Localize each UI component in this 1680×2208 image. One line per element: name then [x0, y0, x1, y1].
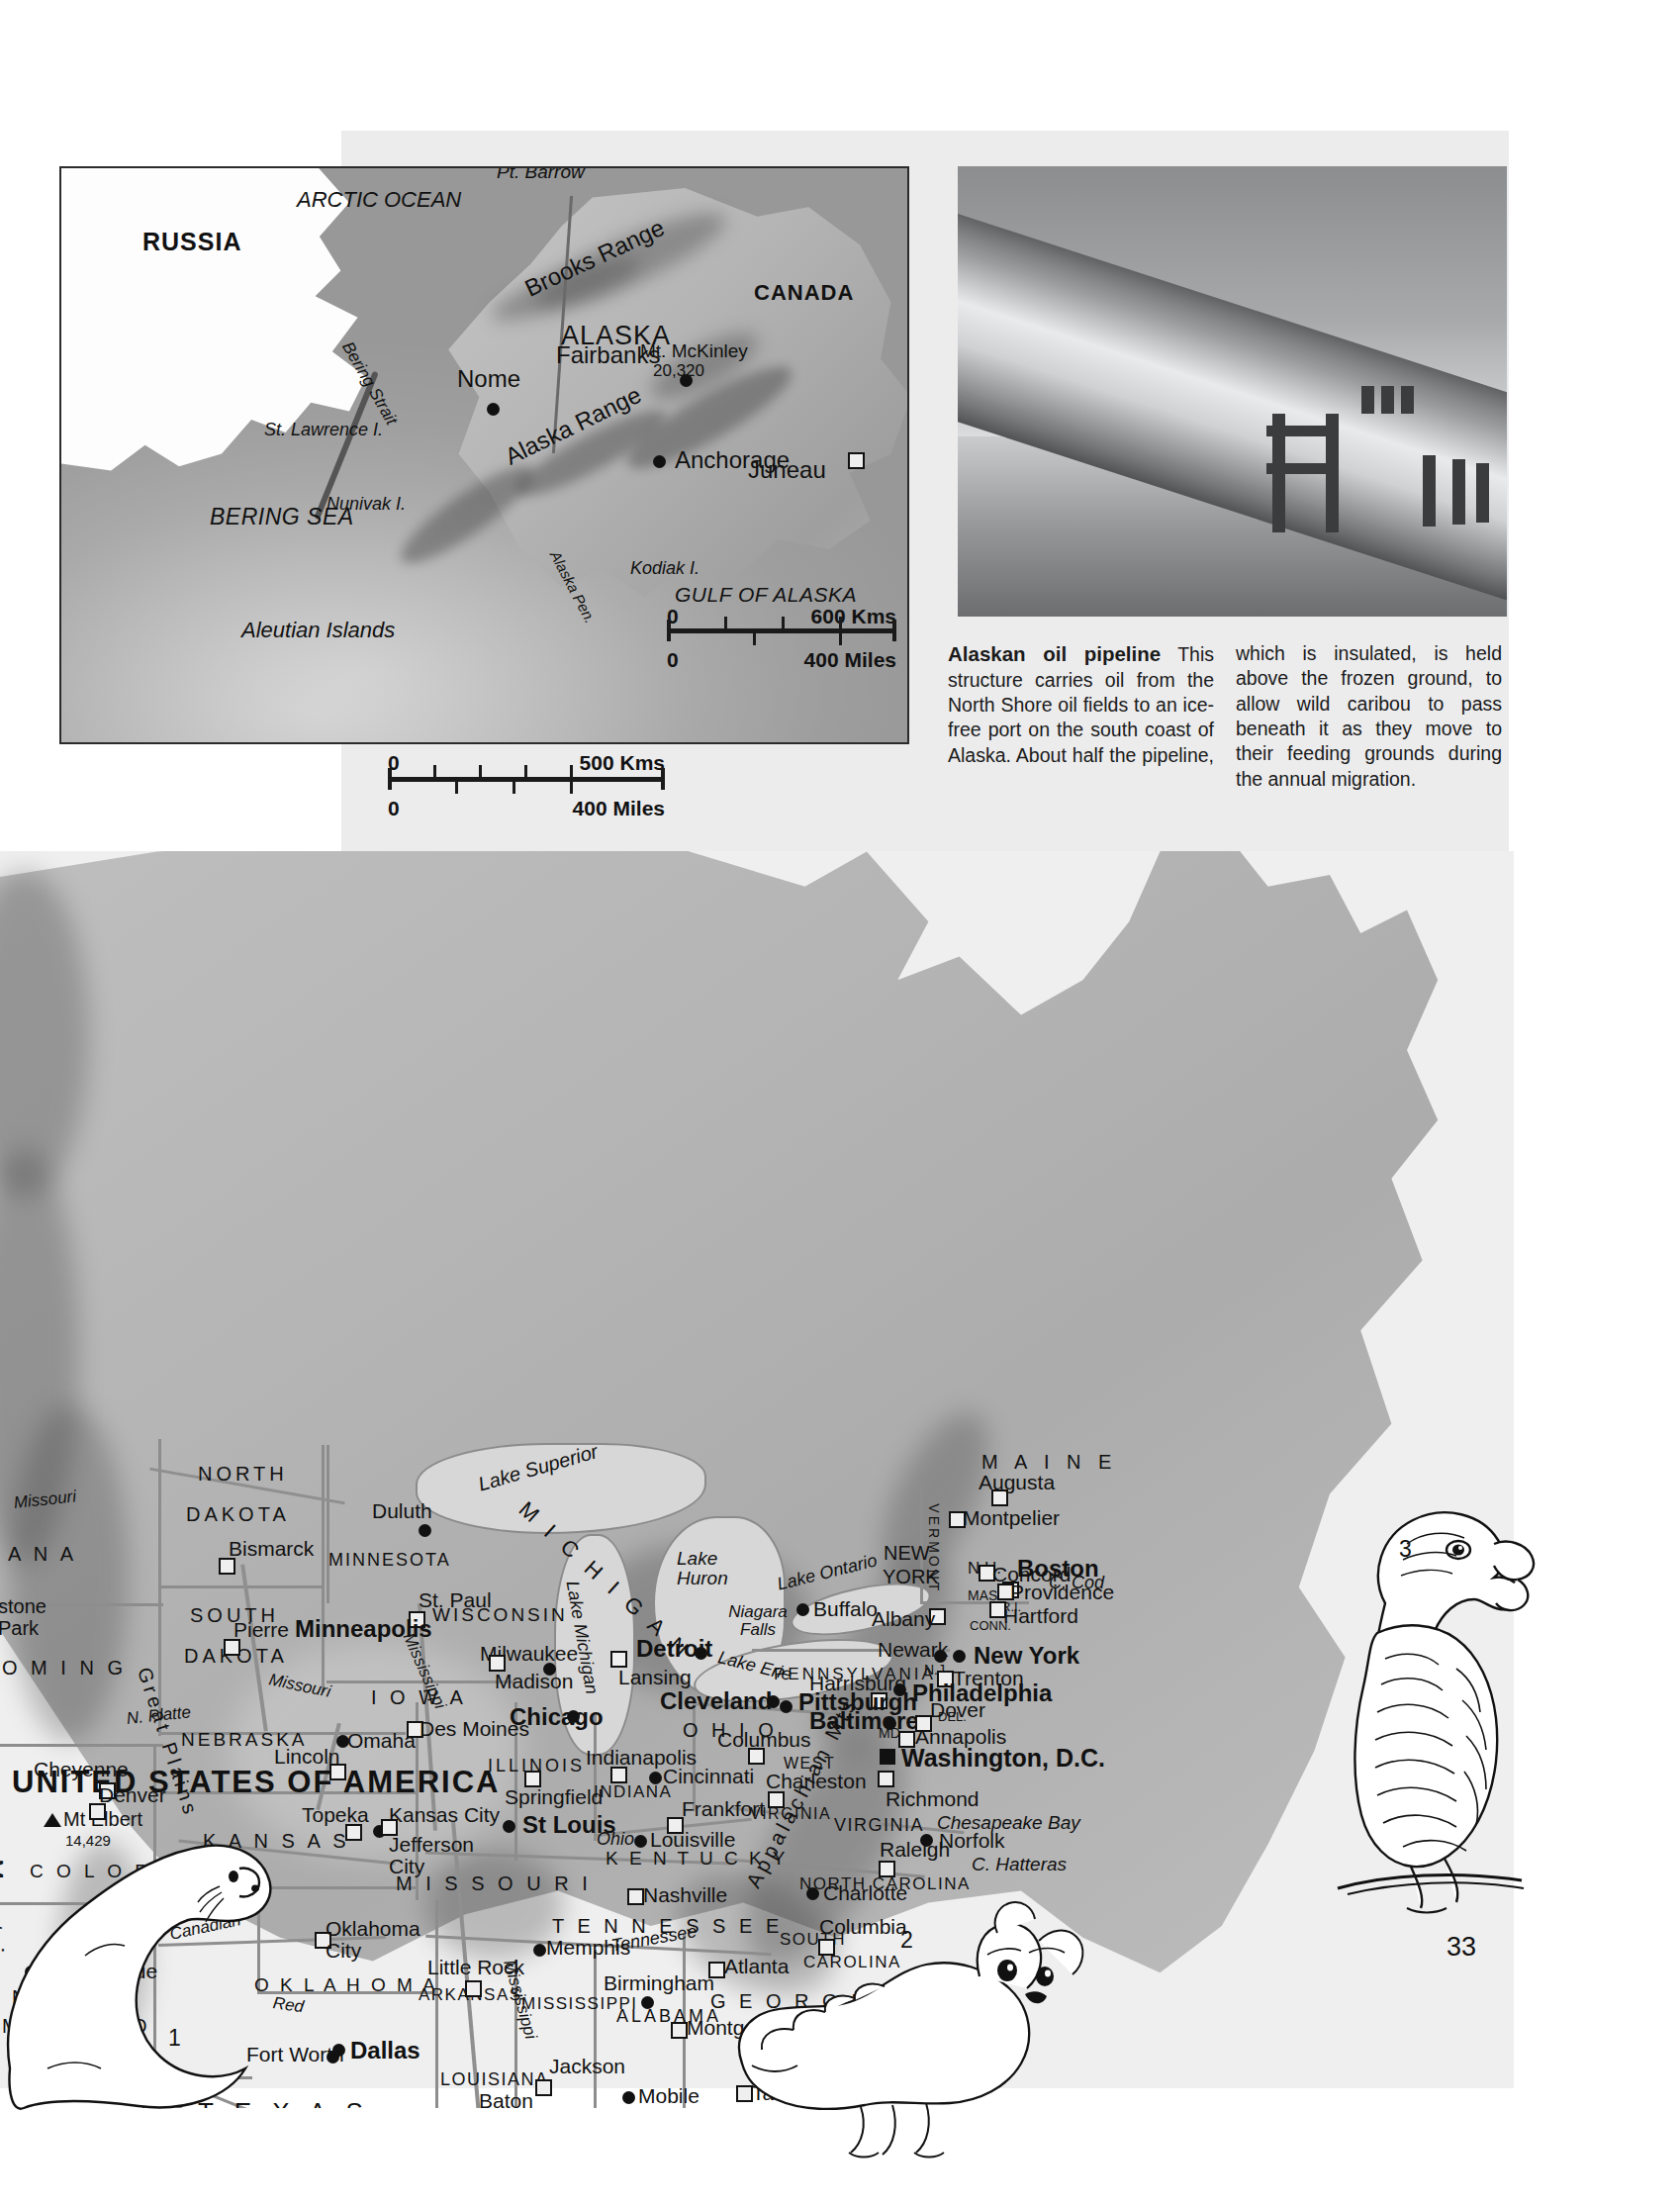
alaska-scale-km-end: 600 Kms	[811, 605, 896, 628]
main-scale-mi-start: 0	[388, 797, 400, 820]
city-label-detroit: Detroit	[636, 1636, 712, 1661]
capital-marker-little-rock[interactable]	[465, 1980, 482, 1997]
city-label-memphis: Memphis	[546, 1937, 630, 1959]
city-label-cincinnati: Cincinnati	[663, 1766, 754, 1787]
city-marker-st-louis[interactable]	[503, 1820, 515, 1833]
city-label-duluth: Duluth	[372, 1500, 432, 1522]
city-label-oklahoma-city: Oklahoma City	[326, 1918, 409, 1962]
caption-title: Alaskan oil pipeline	[948, 642, 1161, 665]
state-label-maine: M A I N E	[981, 1452, 1117, 1473]
city-label-albany: Albany	[872, 1608, 935, 1630]
city-label-minneapolis: Minneapolis	[295, 1616, 432, 1641]
pipeline-caption: Alaskan oil pipeline This structure carr…	[948, 641, 1502, 792]
alaska-scale-mi-start: 0	[667, 648, 679, 672]
capital-marker-richmond[interactable]	[878, 1771, 894, 1787]
border-dakota-east	[322, 1445, 325, 1692]
pipeline-vent-3	[1401, 386, 1414, 414]
animal-number-2: 2	[900, 1927, 913, 1954]
city-label-buffalo: Buffalo	[813, 1598, 878, 1620]
city-marker-mobile[interactable]	[622, 2091, 635, 2104]
pipeline-distant-post-3	[1476, 463, 1489, 523]
city-label-nashville: Nashville	[643, 1884, 727, 1906]
city-label-montpelier: Montpelier	[963, 1507, 1060, 1529]
capital-marker-charleston-wv[interactable]	[768, 1791, 785, 1808]
city-marker-new-york[interactable]	[953, 1650, 966, 1663]
city-marker-pittsburgh[interactable]	[780, 1700, 793, 1713]
pipeline-vent-2	[1381, 386, 1394, 414]
capital-marker-indianapolis[interactable]	[610, 1767, 627, 1783]
city-label-louisville: Louisville	[650, 1829, 735, 1851]
capital-marker-nashville[interactable]	[627, 1888, 644, 1905]
capital-marker-juneau[interactable]	[848, 452, 865, 469]
city-label-madison: Madison	[495, 1671, 573, 1692]
city-marker-memphis[interactable]	[533, 1944, 546, 1957]
city-marker-cincinnati[interactable]	[649, 1772, 662, 1784]
city-label-indianapolis: Indianapolis	[586, 1747, 697, 1769]
city-label-lansing: Lansing	[618, 1667, 692, 1688]
capital-marker-washington-dc[interactable]	[880, 1749, 895, 1765]
city-label-des-moines: Des Moines	[420, 1718, 529, 1740]
label-arctic-ocean: ARCTIC OCEAN	[297, 188, 461, 211]
page-number: 33	[1447, 1932, 1476, 1963]
peak-elevation-mckinley: 20,320	[653, 362, 704, 380]
label-kodiak-island: Kodiak I.	[630, 559, 700, 578]
city-label-jefferson-city: Jefferson City	[389, 1834, 488, 1877]
city-label-cleveland: Cleveland	[660, 1688, 772, 1713]
label-aleutian-islands: Aleutian Islands	[241, 619, 395, 641]
border-nd-sd	[158, 1585, 322, 1588]
label-canada: CANADA	[754, 281, 854, 304]
capital-marker-topeka[interactable]	[345, 1824, 362, 1841]
state-label-north-dakota-1: NORTH	[198, 1464, 288, 1485]
city-marker-louisville[interactable]	[634, 1835, 647, 1848]
pipeline-distant-post-1	[1423, 455, 1436, 527]
city-marker-nome[interactable]	[487, 403, 500, 416]
illustration-seal: 1	[0, 1772, 327, 2148]
state-label-louisiana: LOUISIANA	[440, 2070, 549, 2089]
city-label-juneau: Juneau	[748, 457, 826, 482]
city-label-bismarck: Bismarck	[229, 1538, 314, 1560]
city-label-nome: Nome	[457, 366, 520, 391]
capital-marker-montgomery[interactable]	[671, 2022, 688, 2039]
city-label-baltimore: Baltimore	[809, 1708, 919, 1733]
illustration-bald-eagle: 3	[1308, 1475, 1605, 1920]
capital-marker-atlanta[interactable]	[708, 1962, 725, 1978]
city-label-charleston: Charleston	[766, 1771, 867, 1792]
city-label-kansas-city: Kansas City	[389, 1804, 500, 1826]
state-label-montana: A N A	[8, 1544, 77, 1565]
city-label-richmond: Richmond	[886, 1788, 980, 1810]
city-label-birmingham: Birmingham	[604, 1972, 714, 1994]
city-marker-buffalo[interactable]	[796, 1603, 809, 1616]
alaskan-oil-pipeline-photo	[958, 166, 1507, 617]
city-label-omaha: Omaha	[347, 1730, 416, 1752]
capital-marker-bismarck[interactable]	[219, 1558, 235, 1575]
state-label-virginia: VIRGINIA	[834, 1816, 924, 1835]
main-scale-km-end: 500 Kms	[580, 751, 665, 775]
city-marker-birmingham[interactable]	[641, 1996, 654, 2009]
city-marker-anchorage[interactable]	[653, 455, 666, 468]
alaska-inset-map[interactable]: ARCTIC OCEAN Pt. Barrow RUSSIA CANADA AL…	[59, 166, 909, 744]
pipeline-cross-beam-1	[1266, 426, 1336, 436]
city-label-st-paul: St. Paul	[419, 1589, 492, 1611]
alaska-scale-mi-end: 400 Miles	[804, 648, 896, 672]
city-label-little-rock: Little Rock	[427, 1957, 524, 1978]
city-label-mobile: Mobile	[638, 2085, 700, 2107]
pipeline-cross-beam-2	[1266, 463, 1336, 474]
state-label-indiana: INDIANA	[594, 1783, 672, 1801]
label-pt-barrow: Pt. Barrow	[497, 166, 585, 182]
pipeline-vent-1	[1361, 386, 1374, 414]
city-label-augusta: Augusta	[979, 1472, 1055, 1493]
label-st-lawrence-island: St. Lawrence I.	[264, 421, 383, 439]
main-scale-mi-end: 400 Miles	[573, 797, 665, 820]
pipeline-distant-post-2	[1452, 459, 1465, 525]
city-label-st-louis: St Louis	[522, 1812, 616, 1837]
water-label-niagara-falls: Niagara Falls	[727, 1603, 789, 1639]
city-label-columbus: Columbus	[717, 1729, 811, 1751]
capital-marker-pierre[interactable]	[224, 1639, 240, 1656]
state-label-vermont: VERMONT	[927, 1503, 942, 1593]
label-russia: RUSSIA	[142, 229, 241, 254]
state-label-minnesota: MINNESOTA	[328, 1551, 451, 1570]
city-marker-duluth[interactable]	[419, 1524, 431, 1537]
city-marker-dallas[interactable]	[332, 2044, 345, 2057]
city-label-newark: Newark	[878, 1639, 948, 1661]
state-label-new-york-1: NEW	[884, 1543, 930, 1564]
